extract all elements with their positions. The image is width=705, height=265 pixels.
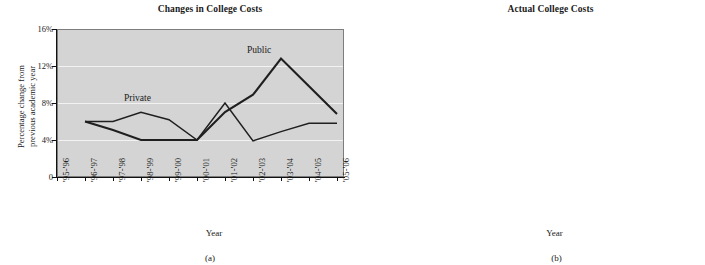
panel-a-title: Changes in College Costs bbox=[0, 4, 390, 14]
x-tick-mark bbox=[113, 177, 114, 181]
panel-b-title: Actual College Costs bbox=[360, 4, 705, 14]
x-tick-mark bbox=[309, 177, 310, 181]
x-tick-mark bbox=[281, 177, 282, 181]
x-tick-mark bbox=[197, 177, 198, 181]
x-tick-label: '98-'99 bbox=[145, 158, 155, 182]
panel-a-changes-in-college-costs: Changes in College Costs Percentage chan… bbox=[0, 0, 360, 265]
y-tick-label: 16% bbox=[37, 24, 53, 34]
x-tick-mark bbox=[225, 177, 226, 181]
x-tick-mark bbox=[141, 177, 142, 181]
private-series-label: Private bbox=[124, 93, 151, 103]
panel-a-y-tick-labels: 16% 12% 8% 4% 0 bbox=[10, 0, 53, 265]
y-tick-mark bbox=[52, 29, 56, 30]
x-tick-mark bbox=[85, 177, 86, 181]
panel-b-x-axis-title: Year bbox=[360, 228, 705, 238]
panel-b-caption: (b) bbox=[360, 253, 705, 263]
x-tick-mark bbox=[337, 177, 338, 181]
x-tick-label: '96-'97 bbox=[89, 158, 99, 182]
y-tick-label: 12% bbox=[37, 61, 53, 71]
private-series-line bbox=[85, 103, 337, 141]
y-tick-mark bbox=[52, 177, 56, 178]
x-tick-mark bbox=[57, 177, 58, 181]
x-tick-label: '95-'96 bbox=[61, 158, 71, 182]
x-tick-label: '01-'02 bbox=[229, 158, 239, 182]
x-tick-label: '04-'05 bbox=[313, 158, 323, 182]
x-tick-label: '05-'06 bbox=[341, 158, 351, 182]
x-tick-label: '97-'98 bbox=[117, 158, 127, 182]
figure-container: Changes in College Costs Percentage chan… bbox=[0, 0, 705, 265]
x-tick-label: '99-'00 bbox=[173, 158, 183, 182]
public-series-label: Public bbox=[247, 45, 271, 55]
y-tick-mark bbox=[52, 66, 56, 67]
y-tick-mark bbox=[52, 103, 56, 104]
public-series-line bbox=[85, 59, 337, 140]
y-tick-mark bbox=[52, 140, 56, 141]
x-tick-mark bbox=[169, 177, 170, 181]
x-tick-label: '02-'03 bbox=[257, 158, 267, 182]
panel-a-x-axis-title: Year bbox=[0, 228, 394, 238]
panel-a-caption: (a) bbox=[0, 253, 390, 263]
panel-b-actual-college-costs: Actual College Costs Cost in dollars bbox=[360, 0, 705, 265]
x-tick-label: '00-'01 bbox=[201, 158, 211, 182]
panel-a-series-lines bbox=[57, 29, 344, 177]
x-tick-label: '03-'04 bbox=[285, 158, 295, 182]
x-tick-mark bbox=[253, 177, 254, 181]
